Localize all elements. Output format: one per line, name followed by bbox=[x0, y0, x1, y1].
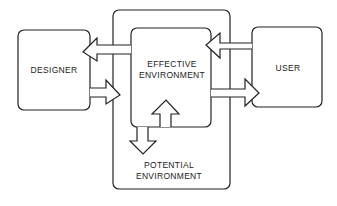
designer-label: DESIGNER bbox=[31, 65, 78, 75]
user-label: USER bbox=[276, 63, 301, 73]
potential-label-line2: ENVIRONMENT bbox=[136, 171, 202, 181]
potential-label-line1: POTENTIAL bbox=[144, 160, 194, 170]
effective-label-line2: ENVIRONMENT bbox=[139, 70, 205, 80]
effective-label-line1: EFFECTIVE bbox=[147, 59, 196, 69]
diagram-canvas: DESIGNER USER EFFECTIVE ENVIRONMENT POTE… bbox=[0, 0, 337, 206]
